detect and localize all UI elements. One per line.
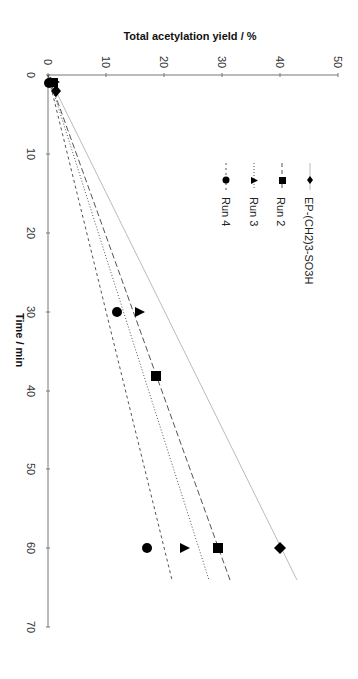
rotated-scatter-chart: 0 10 20 30 40 50 Total acetylation yield…: [0, 0, 358, 679]
legend-item-run4: Run 4: [220, 163, 232, 226]
y-tick-40: 40: [274, 56, 286, 68]
legend-item-run3: Run 3: [248, 163, 260, 226]
y-tick-10: 10: [100, 56, 112, 68]
diamond-marker: [274, 542, 286, 554]
legend-label-run3: Run 3: [248, 197, 260, 226]
x-tick-0: 0: [25, 72, 37, 78]
legend-label-ep: EP-(CH2)3-SO3H: [303, 197, 315, 284]
circle-marker: [44, 78, 54, 88]
x-tick-10: 10: [25, 148, 37, 160]
square-marker: [213, 543, 223, 553]
x-tick-60: 60: [25, 542, 37, 554]
y-tick-20: 20: [158, 56, 170, 68]
y-tick-50: 50: [332, 56, 344, 68]
triangle-marker: [180, 543, 190, 553]
y-tick-30: 30: [216, 56, 228, 68]
diamond-icon: [307, 176, 313, 184]
legend: EP-(CH2)3-SO3H Run 2 Run 3 Run 4: [220, 163, 315, 284]
fit-line-run2: [48, 75, 230, 580]
square-icon: [279, 177, 286, 184]
yield-axis-title: Total acetylation yield / %: [123, 30, 256, 42]
square-marker: [151, 371, 161, 381]
legend-label-run2: Run 2: [275, 197, 287, 226]
circle-marker: [142, 543, 152, 553]
fit-line-run3: [48, 75, 209, 580]
x-tick-50: 50: [25, 463, 37, 475]
circle-icon: [223, 177, 230, 184]
circle-marker: [112, 307, 122, 317]
y-tick-0: 0: [42, 59, 54, 65]
legend-label-run4: Run 4: [220, 197, 232, 226]
x-tick-70: 70: [25, 621, 37, 633]
fit-line-run4: [48, 75, 172, 580]
yield-tick-labels: 0 10 20 30 40 50: [42, 56, 344, 68]
legend-item-run2: Run 2: [275, 163, 287, 226]
time-axis-title: Time / min: [14, 313, 26, 367]
triangle-marker: [135, 307, 145, 317]
fit-line-ep: [48, 75, 297, 580]
legend-item-ep: EP-(CH2)3-SO3H: [303, 163, 315, 284]
x-tick-40: 40: [25, 385, 37, 397]
x-tick-20: 20: [25, 227, 37, 239]
